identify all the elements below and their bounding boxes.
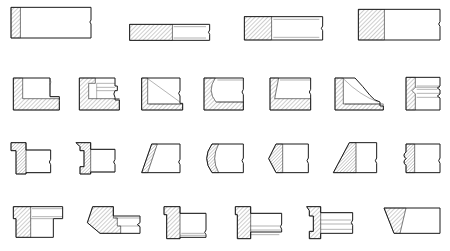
profile-r3c7-wavy-scalloped-edge[interactable]: [404, 144, 440, 173]
profile-r4c5-triple-band-bracket[interactable]: [307, 207, 353, 239]
profile-r1c1-tall-flat-bar-narrow-hatch[interactable]: [11, 7, 91, 38]
profile-r3c6-triangular-splay-edge[interactable]: [333, 143, 376, 173]
profile-r4c6-tapered-wedge-block[interactable]: [384, 208, 440, 233]
profile-r4c4-double-shelf-bracket[interactable]: [235, 207, 281, 239]
row-3-narrow-edge-profiles: [11, 143, 440, 174]
profile-r2c1-l-shaped-rebate-profile[interactable]: [13, 78, 59, 110]
row-1-flat-stock-bars: [11, 7, 440, 40]
profile-r1c4-wide-flat-bar-left-hatch[interactable]: [358, 9, 440, 40]
profile-r2c4-concave-cove-profile[interactable]: [204, 78, 243, 110]
profile-r2c5-shallow-bevel-profile[interactable]: [270, 78, 311, 110]
profile-r4c1-t-head-bracket-profile[interactable]: [13, 207, 62, 238]
profile-r2c6-ogee-sweep-profile[interactable]: [335, 78, 383, 110]
row-2-rebated-and-chamfered-profiles: [13, 77, 440, 110]
row-4-bracket-and-capital-profiles: [13, 207, 440, 239]
profile-r4c2-angled-corbel-profile[interactable]: [87, 207, 140, 234]
profile-r1c3-medium-flat-bar-left-hatch[interactable]: [244, 17, 322, 40]
profile-r3c1-t-notch-edge-profile[interactable]: [11, 143, 51, 174]
profile-r3c4-rounded-bullnose-edge[interactable]: [207, 144, 244, 173]
drawing-sheet: [0, 0, 450, 251]
profile-r3c5-notched-vee-edge[interactable]: [269, 144, 309, 173]
profile-r1c2-thin-flat-bar-half-hatch[interactable]: [130, 24, 210, 40]
profile-r3c3-angled-chamfer-edge[interactable]: [142, 144, 180, 173]
profile-r2c2-stepped-rebate-with-groove[interactable]: [79, 78, 119, 110]
profile-sheet-svg: [0, 0, 450, 251]
profile-r4c3-l-bracket-with-shelf[interactable]: [164, 207, 206, 239]
profile-r3c2-double-notch-edge-profile[interactable]: [76, 143, 115, 174]
profile-r2c3-diagonal-splay-profile[interactable]: [142, 78, 183, 110]
profile-r2c7-multi-groove-molding[interactable]: [406, 77, 440, 110]
